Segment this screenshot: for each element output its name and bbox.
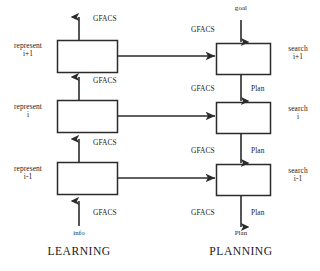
label-goal-input: goal (222, 4, 260, 11)
label-plan-final-output: Plan (221, 229, 261, 236)
label-represent-i-minus-1-line2: i-1 (4, 173, 52, 181)
label-gfacs-planning-lower: GFACS (191, 147, 215, 155)
label-info-input: info (57, 229, 101, 236)
label-plan-planning-upper: Plan (251, 85, 265, 93)
box-represent-i (58, 101, 118, 133)
title-planning: PLANNING (194, 246, 288, 258)
title-learning: LEARNING (33, 246, 125, 258)
label-gfacs-planning-upper: GFACS (191, 85, 215, 93)
label-represent-i-plus-1-line2: i+1 (4, 50, 52, 58)
label-represent-i-plus-1: represent i+1 (4, 42, 52, 58)
box-search-i (217, 103, 271, 134)
diagram-canvas: represent i+1 represent i represent i-1 … (0, 0, 320, 271)
label-search-i-plus-1-line2: i+1 (278, 53, 318, 61)
box-search-i-minus-1 (217, 165, 271, 196)
label-search-i-minus-1-line2: i-1 (278, 175, 318, 183)
label-represent-i-line2: i (4, 111, 52, 119)
label-plan-planning-output: Plan (251, 209, 265, 217)
box-represent-i-minus-1 (58, 163, 118, 195)
label-represent-i: represent i (4, 103, 52, 119)
label-search-i-plus-1: search i+1 (278, 45, 318, 61)
label-plan-planning-lower: Plan (251, 147, 265, 155)
label-gfacs-learning-mid-bottom: GFACS (93, 139, 117, 147)
label-gfacs-learning-input: GFACS (93, 209, 117, 217)
box-search-i-plus-1 (217, 44, 271, 75)
box-represent-i-plus-1 (58, 41, 118, 73)
label-gfacs-planning-top: GFACS (191, 26, 215, 34)
label-gfacs-learning-output: GFACS (93, 15, 117, 23)
label-gfacs-learning-top-mid: GFACS (93, 77, 117, 85)
diagram-graphics (0, 0, 320, 271)
label-represent-i-minus-1: represent i-1 (4, 165, 52, 181)
label-search-i: search i (278, 105, 318, 121)
label-search-i-minus-1: search i-1 (278, 167, 318, 183)
label-search-i-line2: i (278, 113, 318, 121)
label-gfacs-planning-output: GFACS (191, 209, 215, 217)
